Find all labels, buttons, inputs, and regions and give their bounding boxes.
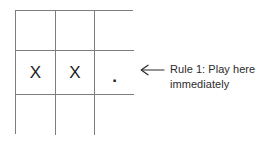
rule-annotation-text: Rule 1: Play here immediately [170,62,255,91]
diagram-canvas: X X . Rule 1: Play here immediately [0,0,271,144]
board-cell-r2c2[interactable]: X [56,51,95,95]
cell-mark-x: X [69,64,80,81]
board-cell-r2c1[interactable]: X [16,51,56,95]
rule-annotation-line2: immediately [170,77,255,92]
board-cell-r1c1[interactable] [16,11,56,51]
board-cell-r1c2[interactable] [56,11,95,51]
arrow-left-icon [139,64,165,76]
cell-mark-x: X [30,64,41,81]
board-cell-r3c1[interactable] [16,95,56,135]
board-cell-r3c3[interactable] [95,95,134,135]
board-cell-r3c2[interactable] [56,95,95,135]
board-cell-r1c3[interactable] [95,11,134,51]
rule-annotation: Rule 1: Play here immediately [139,62,255,91]
board-cell-r2c3[interactable]: . [95,51,134,95]
rule-annotation-line1: Rule 1: Play here [170,63,255,75]
tic-tac-toe-board: X X . [15,10,133,134]
cell-mark-dot: . [112,68,117,85]
